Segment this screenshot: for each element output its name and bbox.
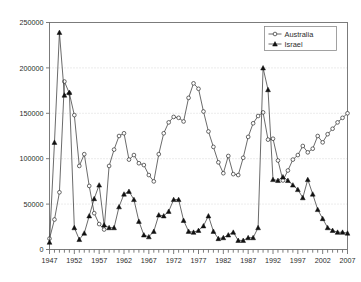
y-axis-tick-label: 100000	[20, 154, 44, 163]
data-point-marker-circle	[273, 32, 277, 36]
data-point-marker-circle	[82, 152, 86, 156]
data-point-marker-circle	[53, 218, 57, 222]
x-axis-tick-label: 2007	[340, 256, 356, 265]
y-axis-tick-label: 250000	[20, 18, 44, 27]
data-point-marker-circle	[162, 131, 166, 135]
data-point-marker-circle	[182, 120, 186, 124]
data-point-marker-circle	[276, 159, 280, 163]
data-point-marker-circle	[87, 184, 91, 188]
legend-label-israel: Israel	[285, 40, 303, 49]
data-point-marker-circle	[152, 180, 156, 184]
y-axis-tick-label: 150000	[20, 109, 44, 118]
data-point-marker-circle	[177, 116, 181, 120]
x-axis-tick-label: 1947	[42, 256, 58, 265]
legend-label-australia: Australia	[285, 30, 315, 39]
data-point-marker-circle	[266, 138, 270, 142]
data-point-marker-circle	[92, 211, 96, 215]
data-point-marker-circle	[321, 141, 325, 145]
data-point-marker-circle	[102, 228, 106, 232]
x-axis-tick-label: 1997	[290, 256, 306, 265]
data-point-marker-circle	[301, 144, 305, 148]
data-point-marker-circle	[241, 156, 245, 160]
data-point-marker-circle	[137, 161, 141, 165]
data-point-marker-circle	[187, 96, 191, 100]
data-point-marker-circle	[246, 135, 250, 139]
data-point-marker-circle	[117, 134, 121, 138]
data-point-marker-circle	[112, 148, 116, 152]
data-point-marker-circle	[221, 171, 225, 175]
data-point-marker-circle	[256, 114, 260, 118]
data-point-marker-circle	[271, 137, 275, 141]
data-point-marker-circle	[212, 145, 216, 149]
data-point-marker-circle	[217, 160, 221, 164]
x-axis-tick-label: 1982	[215, 256, 231, 265]
x-axis-tick-label: 1957	[91, 256, 107, 265]
data-point-marker-circle	[311, 147, 315, 151]
data-point-marker-circle	[341, 116, 345, 120]
data-point-marker-circle	[172, 115, 176, 119]
data-point-marker-circle	[316, 134, 320, 138]
data-point-marker-circle	[122, 131, 126, 135]
data-point-marker-circle	[157, 152, 161, 156]
x-axis-tick-label: 1992	[265, 256, 281, 265]
data-point-marker-circle	[132, 153, 136, 157]
data-point-marker-circle	[77, 164, 81, 168]
x-axis-tick-label: 1987	[240, 256, 256, 265]
data-point-marker-circle	[281, 179, 285, 183]
y-axis-tick-label: 50000	[24, 200, 44, 209]
data-point-marker-circle	[107, 164, 111, 168]
data-point-marker-circle	[197, 87, 201, 91]
data-point-marker-circle	[226, 154, 230, 158]
data-point-marker-circle	[336, 121, 340, 125]
data-point-marker-circle	[306, 150, 310, 154]
data-point-marker-circle	[231, 172, 235, 176]
data-point-marker-circle	[147, 173, 151, 177]
data-point-marker-circle	[72, 113, 76, 117]
y-axis-tick-label: 200000	[20, 64, 44, 73]
data-point-marker-circle	[346, 111, 350, 115]
x-axis-tick-label: 2002	[315, 256, 331, 265]
data-point-marker-circle	[207, 130, 211, 134]
x-axis-tick-label: 1977	[191, 256, 207, 265]
line-chart: 050000100000150000200000250000 194719521…	[0, 0, 361, 282]
data-point-marker-circle	[192, 81, 196, 85]
data-point-marker-circle	[291, 158, 295, 162]
chart-container: 050000100000150000200000250000 194719521…	[0, 0, 361, 282]
data-point-marker-circle	[58, 190, 62, 194]
x-axis-tick-label: 1967	[141, 256, 157, 265]
x-axis-tick-label: 1952	[66, 256, 82, 265]
data-point-marker-circle	[167, 121, 171, 125]
data-point-marker-circle	[127, 158, 131, 162]
data-point-marker-circle	[97, 222, 101, 226]
x-axis-tick-label: 1962	[116, 256, 132, 265]
data-point-marker-circle	[296, 153, 300, 157]
data-point-marker-circle	[286, 169, 290, 173]
data-point-marker-circle	[331, 127, 335, 131]
data-point-marker-circle	[326, 132, 330, 136]
y-axis-tick-label: 0	[40, 245, 44, 254]
x-axis-tick-label: 1972	[166, 256, 182, 265]
data-point-marker-circle	[202, 110, 206, 114]
data-point-marker-circle	[142, 163, 146, 167]
data-point-marker-circle	[236, 173, 240, 177]
chart-legend: AustraliaIsrael	[265, 27, 337, 51]
data-point-marker-circle	[251, 121, 255, 125]
